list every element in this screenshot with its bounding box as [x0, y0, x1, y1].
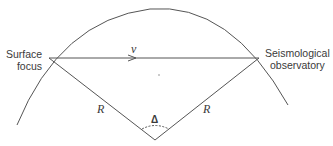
- observatory-line2: observatory: [265, 59, 330, 71]
- velocity-label: v: [131, 43, 136, 55]
- surface-focus-label: Surface focus: [6, 48, 42, 72]
- observatory-line1: Seismological: [265, 47, 330, 59]
- angle-delta-label: Δ: [151, 114, 158, 126]
- radius-left-label: R: [97, 103, 104, 115]
- diagram-canvas: [0, 0, 333, 146]
- surface-focus-line2: focus: [6, 60, 42, 72]
- radius-right: [155, 58, 259, 140]
- center-dot: [158, 74, 160, 76]
- angle-arc: [142, 126, 169, 130]
- radius-left: [49, 58, 155, 140]
- surface-focus-line1: Surface: [6, 48, 42, 60]
- radius-right-label: R: [203, 103, 210, 115]
- observatory-label: Seismological observatory: [265, 47, 330, 71]
